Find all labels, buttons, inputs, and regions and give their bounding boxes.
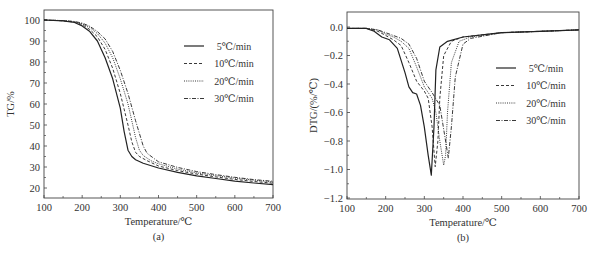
- x-tick-label: 700: [265, 202, 281, 213]
- legend-label: 10℃/min: [214, 58, 254, 69]
- y-tick-label: −1.0: [324, 164, 343, 175]
- legend-label: 20℃/min: [526, 98, 566, 109]
- legend-label: 30℃/min: [214, 93, 254, 104]
- x-tick-label: 600: [227, 202, 243, 213]
- panel-label: (b): [457, 232, 470, 244]
- series-line: [347, 28, 579, 158]
- y-tick-label: 30: [30, 162, 41, 173]
- x-tick-label: 100: [339, 203, 355, 214]
- y-tick-label: −0.2: [324, 50, 343, 61]
- y-tick-label: 20: [30, 183, 41, 194]
- plot-frame: [44, 10, 273, 198]
- x-tick-label: 300: [112, 202, 128, 213]
- x-tick-label: 500: [189, 202, 205, 213]
- tg-chart: 1002003004005006007002030405060708090100…: [0, 0, 296, 254]
- dtg-chart: 1002003004005006007000.0−0.2−0.4−0.6−0.8…: [296, 0, 592, 254]
- legend-label: 30℃/min: [526, 115, 566, 126]
- x-tick-label: 500: [494, 203, 510, 214]
- x-tick-label: 200: [74, 202, 90, 213]
- x-tick-label: 400: [455, 203, 471, 214]
- x-tick-label: 700: [571, 203, 587, 214]
- y-axis-label: DTG/(%/℃): [308, 78, 320, 133]
- x-tick-label: 100: [36, 202, 52, 213]
- y-tick-label: 0.0: [330, 22, 343, 33]
- y-tick-label: 60: [30, 99, 41, 110]
- x-tick-label: 300: [416, 203, 432, 214]
- legend-label: 10℃/min: [526, 80, 566, 91]
- legend-label: 5℃/min: [217, 41, 252, 52]
- legend-label: 20℃/min: [214, 76, 254, 87]
- y-tick-label: 100: [24, 15, 40, 26]
- x-tick-label: 600: [532, 203, 548, 214]
- y-tick-label: 50: [30, 120, 41, 131]
- y-tick-label: 70: [30, 78, 41, 89]
- x-tick-label: 200: [378, 203, 394, 214]
- x-axis-label: Temperature/℃: [125, 216, 193, 227]
- y-tick-label: −0.4: [324, 79, 344, 90]
- y-tick-label: −0.6: [324, 107, 343, 118]
- y-tick-label: 40: [30, 141, 41, 152]
- y-tick-label: −0.8: [324, 136, 343, 147]
- legend-label: 5℃/min: [529, 63, 564, 74]
- y-tick-label: 90: [30, 36, 41, 47]
- y-axis-label: TG/%: [5, 91, 16, 117]
- panel-label: (a): [153, 231, 165, 243]
- y-tick-label: 80: [30, 57, 41, 68]
- y-tick-label: −1.2: [324, 193, 343, 204]
- x-tick-label: 400: [151, 202, 167, 213]
- x-axis-label: Temperature/℃: [429, 217, 497, 228]
